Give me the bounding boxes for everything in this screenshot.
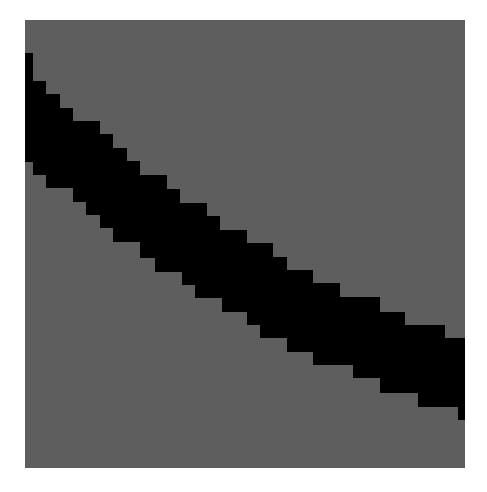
pixel-image	[0, 0, 487, 492]
